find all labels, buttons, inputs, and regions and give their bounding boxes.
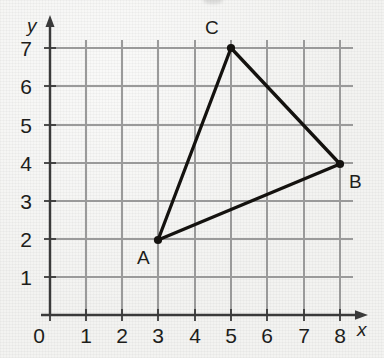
y-tick-label-3: 3 (15, 191, 37, 212)
axis-lines (41, 22, 358, 315)
y-tick-label-7: 7 (15, 38, 37, 59)
y-axis-arrow-icon (46, 15, 55, 27)
x-tick-label-3: 3 (148, 325, 168, 346)
x-tick-label-6: 6 (257, 325, 277, 346)
y-axis-label: y (27, 16, 37, 35)
x-tick-label-5: 5 (221, 325, 241, 346)
x-tick-label-4: 4 (185, 325, 205, 346)
x-tick-label-7: 7 (294, 325, 314, 346)
x-axis-label: x (357, 320, 367, 339)
x-tick-label-8: 8 (330, 325, 350, 346)
y-tick-label-2: 2 (15, 229, 37, 250)
x-tick-label-1: 1 (76, 325, 96, 346)
plot-canvas (0, 0, 384, 358)
vertex-label-a: A (137, 248, 150, 267)
origin-tick-label: 0 (29, 325, 49, 346)
y-tick-label-4: 4 (15, 153, 37, 174)
triangle-abc (158, 48, 340, 240)
vertex-label-c: C (205, 18, 219, 37)
vertex-label-b: B (349, 172, 362, 191)
vertex-dot-c (227, 44, 235, 52)
vertex-dot-b (336, 160, 344, 168)
x-tick-label-2: 2 (112, 325, 132, 346)
vertex-dot-a (154, 236, 162, 244)
coordinate-plane-figure: y x 0 1 2 3 4 5 6 7 8 1 2 3 4 5 6 7 A B … (0, 0, 384, 358)
y-tick-label-6: 6 (15, 76, 37, 97)
y-tick-label-1: 1 (15, 267, 37, 288)
y-tick-label-5: 5 (15, 115, 37, 136)
